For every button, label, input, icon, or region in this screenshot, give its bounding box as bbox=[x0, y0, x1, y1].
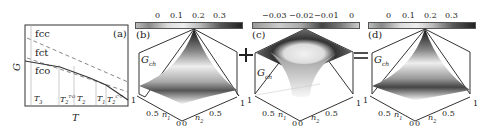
n2-tick-0: 0 bbox=[415, 120, 420, 128]
panel-d-label: (d) bbox=[368, 30, 382, 40]
n1-tick-0: 0 bbox=[409, 120, 414, 128]
n1-tick-1: 1 bbox=[363, 97, 368, 105]
n2-tick-05: 0.5 bbox=[442, 110, 455, 118]
n1-tick-05: 0.5 bbox=[378, 110, 391, 118]
surface-plot-d bbox=[0, 0, 484, 133]
n2-axis-label: n2 bbox=[428, 114, 436, 124]
n1-axis-label: n1 bbox=[394, 111, 402, 121]
n2-tick-1: 1 bbox=[473, 100, 478, 108]
panel-d-zlabel: Gch bbox=[374, 55, 389, 67]
